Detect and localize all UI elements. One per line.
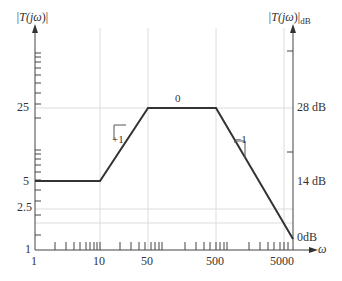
left-y-axis-title: |T(jω)|	[16, 10, 48, 25]
right-y-axis	[287, 30, 293, 250]
y-tick-25: 25	[17, 100, 29, 115]
grid	[35, 28, 293, 250]
x-axis-title: ω	[318, 242, 326, 257]
slope-label-plus: +1	[112, 133, 124, 145]
right-tick-14db: 14 dB	[297, 174, 326, 189]
x-tick-10: 10	[93, 254, 105, 269]
x-axis-arrow-icon	[309, 247, 318, 253]
x-tick-500: 500	[206, 254, 224, 269]
right-tick-28db: 28 dB	[297, 100, 326, 115]
magnitude-curve	[35, 108, 293, 239]
x-tick-1: 1	[31, 254, 37, 269]
x-axis	[35, 242, 312, 250]
y-tick-5: 5	[23, 174, 29, 189]
left-y-axis	[35, 30, 41, 250]
right-y-axis-title: |T(jω)|dB	[268, 10, 311, 26]
x-tick-5000: 5000	[270, 254, 294, 269]
left-y-axis-arrow-icon	[32, 24, 38, 33]
slope-label-zero: 0	[175, 92, 181, 104]
y-tick-2-5: 2.5	[17, 200, 32, 215]
x-tick-50: 50	[141, 254, 153, 269]
slope-label-minus: −1	[235, 133, 247, 145]
bode-magnitude-chart	[0, 0, 342, 281]
right-tick-0db: 0dB	[297, 230, 317, 245]
